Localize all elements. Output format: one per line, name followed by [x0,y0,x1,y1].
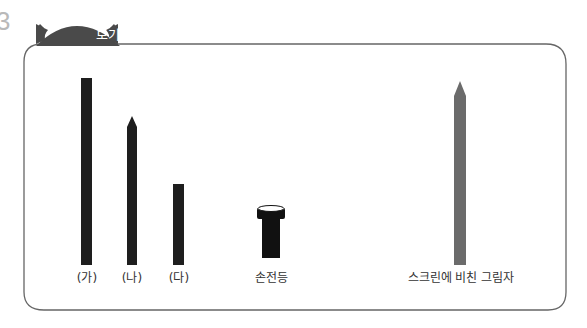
shadow-bar [454,81,466,265]
figure: 3 보기 (가) (나) (다) 손전등 스크린에 비친 그림자 [0,0,587,328]
label-shadow: 스크린에 비친 그림자 [408,268,515,285]
flashlight-icon [257,206,285,259]
bogi-title: 보기 [96,24,120,43]
bar-da [173,184,184,265]
bar-ga [81,78,92,265]
label-da: (다) [169,268,189,285]
label-flashlight: 손전등 [255,268,288,285]
bar-na [127,116,137,265]
label-ga: (가) [77,268,97,285]
label-na: (나) [122,268,142,285]
